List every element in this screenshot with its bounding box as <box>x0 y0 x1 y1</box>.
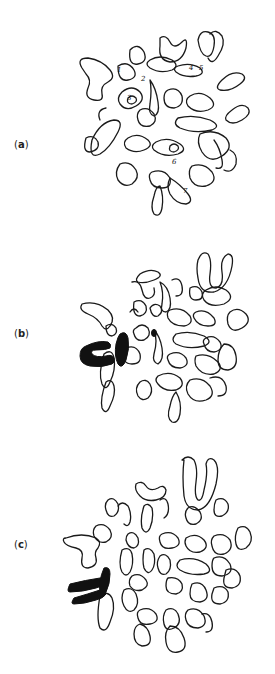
chromosome-number-1: 1 <box>117 66 121 74</box>
chromosome-number-6: 6 <box>172 158 177 166</box>
chromosome-spread-c <box>0 450 275 674</box>
chromosome-number-7: 7 <box>183 187 188 195</box>
dark-chromosome-dot <box>152 330 157 337</box>
chromosome-number-4: 4 <box>188 64 193 72</box>
chromosome-number-3: 3 <box>127 94 132 102</box>
panel-b: (b) <box>0 230 275 450</box>
chromosome-number-5: 5 <box>199 64 204 72</box>
panel-c: (c) <box>0 450 275 674</box>
dark-chromosome-centromere <box>100 568 111 595</box>
chromosome-number-2: 2 <box>140 75 146 83</box>
dark-chromosome-bar <box>115 333 128 367</box>
chromosome-spread-a: 1 2 3 4 5 6 7 <box>0 0 275 230</box>
chromosome-spread-b <box>0 230 275 450</box>
dark-chromosome-u <box>80 342 115 367</box>
panel-a: (a) <box>0 0 275 230</box>
